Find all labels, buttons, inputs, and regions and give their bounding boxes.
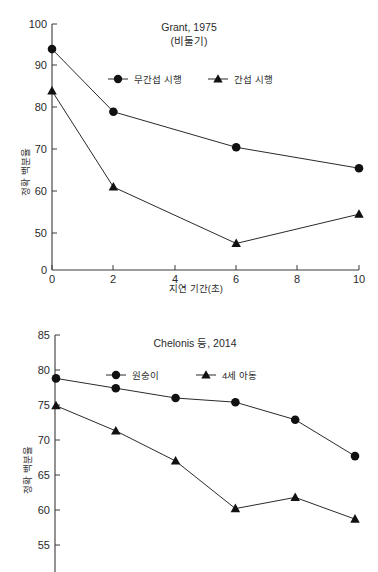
x-axis-ticks: 0 2 4 6 8 10 <box>49 265 365 285</box>
triangle-marker <box>111 426 121 435</box>
chart-legend: 원숭이 4세 아동 <box>106 370 257 381</box>
triangle-marker <box>109 182 119 191</box>
circle-marker <box>291 415 300 424</box>
x-tick-label: 2 <box>110 273 116 285</box>
series-line-1 <box>56 378 355 456</box>
y-tick-label: 100 <box>29 18 47 30</box>
chart-chelonis-2014-svg: Chelonis 등, 2014 정확 백분율 85 80 75 70 65 6… <box>0 300 378 572</box>
series-line-2 <box>52 91 359 244</box>
y-axis-title: 정확 백분율 <box>20 148 31 196</box>
x-tick-label: 4 <box>172 273 178 285</box>
y-tick-label: 60 <box>38 504 50 516</box>
x-tick-label: 6 <box>233 273 239 285</box>
y-tick-label: 60 <box>35 185 47 197</box>
y-tick-label: 70 <box>35 143 47 155</box>
series-line-1 <box>52 49 359 168</box>
legend-label-series1: 무간섭 시행 <box>134 74 182 85</box>
triangle-marker <box>213 74 222 82</box>
legend-label-series2: 4세 아동 <box>222 370 257 381</box>
y-tick-label-zero: 0 <box>41 264 47 276</box>
x-tick-label: 8 <box>294 273 300 285</box>
chart-legend: 무간섭 시행 간섭 시행 <box>108 74 273 85</box>
y-tick-label: 70 <box>38 434 50 446</box>
circle-marker <box>52 374 61 383</box>
triangle-marker <box>47 86 57 95</box>
y-tick-label: 75 <box>38 399 50 411</box>
circle-marker <box>112 371 120 379</box>
chart-chelonis-2014: Chelonis 등, 2014 정확 백분율 85 80 75 70 65 6… <box>0 300 378 572</box>
y-tick-label: 50 <box>35 227 47 239</box>
triangle-marker <box>201 370 210 378</box>
triangle-marker <box>171 456 181 465</box>
triangle-marker <box>290 492 300 501</box>
circle-marker <box>109 107 118 116</box>
circle-marker <box>171 394 180 403</box>
y-axis-ticks: 100 90 80 70 60 50 0 <box>29 18 57 276</box>
y-tick-label: 85 <box>38 329 50 341</box>
y-tick-label: 90 <box>35 59 47 71</box>
x-tick-label: 0 <box>49 273 55 285</box>
series-line-2 <box>56 406 355 519</box>
y-tick-label: 80 <box>35 101 47 113</box>
legend-label-series2: 간섭 시행 <box>234 74 273 85</box>
triangle-marker <box>354 209 364 218</box>
chart-series-group <box>47 45 364 247</box>
y-tick-label: 65 <box>38 469 50 481</box>
chart-grant-1975: Grant, 1975 (비둘기) 정확 백분율 지연 기간(초) 100 90… <box>0 0 378 300</box>
y-tick-label: 55 <box>38 539 50 551</box>
chart-title-line1: Chelonis 등, 2014 <box>154 337 237 349</box>
circle-marker <box>112 384 121 393</box>
circle-marker <box>355 164 364 173</box>
chart-grant-1975-svg: Grant, 1975 (비둘기) 정확 백분율 지연 기간(초) 100 90… <box>0 0 378 300</box>
y-tick-label: 80 <box>38 364 50 376</box>
circle-marker <box>231 398 240 407</box>
circle-marker <box>48 45 57 54</box>
circle-marker <box>232 143 241 152</box>
legend-label-series1: 원숭이 <box>132 370 159 381</box>
y-axis-ticks: 85 80 75 70 65 60 55 <box>38 329 60 551</box>
chart-series-group <box>51 374 360 523</box>
figure-page: Grant, 1975 (비둘기) 정확 백분율 지연 기간(초) 100 90… <box>0 0 378 572</box>
chart-title-line2: (비둘기) <box>171 35 208 47</box>
chart-title-line1: Grant, 1975 <box>161 21 217 33</box>
x-tick-label: 10 <box>353 273 365 285</box>
circle-marker <box>114 75 122 83</box>
circle-marker <box>351 452 360 461</box>
y-axis-title: 정확 백분율 <box>22 446 33 494</box>
